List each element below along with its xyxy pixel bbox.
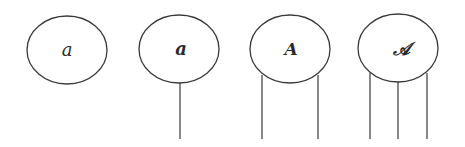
node-label: a <box>175 38 187 59</box>
node-a-bold: a <box>139 15 219 139</box>
node-A-script: 𝒜 <box>358 14 438 139</box>
node-label: A <box>282 39 297 59</box>
node-diagram: a a A 𝒜 <box>0 0 465 147</box>
node-A-bold: A <box>250 15 330 139</box>
node-label: a <box>62 39 73 60</box>
node-label: 𝒜 <box>392 38 416 59</box>
node-a-plain: a <box>27 16 107 84</box>
